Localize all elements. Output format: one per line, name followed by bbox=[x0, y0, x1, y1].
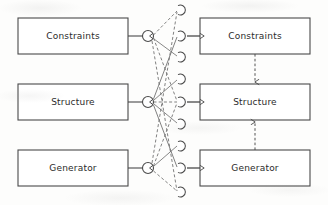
arc-node-2 bbox=[178, 31, 185, 41]
diagram-canvas: Constraints Structure Generator Constrai… bbox=[0, 0, 328, 205]
right-box-generator bbox=[200, 150, 310, 186]
circle-node-generator bbox=[143, 163, 154, 174]
edge-c3-a9 bbox=[154, 171, 178, 191]
edge-c1-a1 bbox=[154, 11, 178, 35]
arc-node-4 bbox=[178, 74, 185, 84]
arc-node-9 bbox=[178, 187, 185, 197]
arc-node-8 bbox=[178, 163, 185, 173]
arc-node-7 bbox=[178, 141, 185, 151]
arc-node-5 bbox=[178, 97, 185, 107]
edge-c3-a1 bbox=[152, 12, 177, 163]
left-box-constraints bbox=[18, 18, 128, 54]
arc-node-6 bbox=[178, 119, 185, 129]
left-box-structure bbox=[18, 84, 128, 120]
edge-c1-a9 bbox=[152, 41, 177, 191]
edge-c1-a3 bbox=[154, 39, 177, 56]
arc-node-3 bbox=[178, 52, 185, 62]
right-box-structure bbox=[200, 84, 310, 120]
edge-c2-a8 bbox=[154, 105, 178, 167]
left-box-generator bbox=[18, 150, 128, 186]
diagram-svg bbox=[0, 0, 328, 205]
right-box-constraints bbox=[200, 18, 310, 54]
circle-node-structure bbox=[143, 97, 154, 108]
circle-node-constraints bbox=[143, 31, 154, 42]
edge-c2-a4 bbox=[154, 80, 177, 100]
arc-node-1 bbox=[178, 5, 185, 15]
